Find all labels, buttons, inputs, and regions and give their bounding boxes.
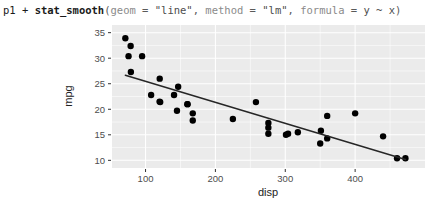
data-point [265, 120, 271, 126]
data-point [171, 92, 177, 98]
y-axis-ticks: 101520253035 [94, 27, 111, 166]
data-point [175, 84, 181, 90]
data-point [174, 108, 180, 114]
data-point [148, 92, 154, 98]
y-tick-label: 30 [94, 53, 105, 64]
data-point [190, 117, 196, 123]
data-point [380, 133, 386, 139]
y-tick-label: 10 [94, 155, 105, 166]
data-point [128, 69, 134, 75]
data-point [125, 53, 131, 59]
code-token-value-formula: y ~ x [363, 4, 395, 16]
scatter-plot-svg: 100200300400 101520253035 disp mpg [0, 20, 431, 200]
data-point [253, 99, 259, 105]
data-point [190, 110, 196, 116]
data-point [230, 116, 236, 122]
data-point [157, 75, 163, 81]
y-tick-label: 20 [94, 104, 105, 115]
code-token-eq-2: = [243, 4, 262, 16]
data-point [184, 101, 190, 107]
data-point [122, 35, 128, 41]
code-token-value-line: "line" [155, 4, 193, 16]
y-axis-title: mpg [62, 85, 74, 106]
code-token-arg-formula: formula [300, 4, 344, 16]
data-point [317, 140, 323, 146]
code-token-eq-3: = [344, 4, 363, 16]
code-token-comma-1: , [193, 4, 206, 16]
x-axis-title: disp [258, 186, 278, 198]
ggplot-output: 100200300400 101520253035 disp mpg [0, 20, 431, 200]
code-token-comma-2: , [288, 4, 301, 16]
code-token-function: stat_smooth [35, 4, 105, 16]
data-point [157, 99, 163, 105]
x-tick-label: 100 [138, 173, 154, 184]
data-point [139, 53, 145, 59]
data-point [283, 132, 289, 138]
data-point [265, 131, 271, 137]
code-token-object: p1 [3, 4, 16, 16]
code-token-plus: + [16, 4, 35, 16]
data-point [127, 43, 133, 49]
data-point [295, 129, 301, 135]
x-tick-label: 200 [207, 173, 223, 184]
data-point [352, 110, 358, 116]
code-token-arg-method: method [205, 4, 243, 16]
code-token-arg-geom: geom [111, 4, 136, 16]
screenshot-root: p1 + stat_smooth(geom = "line", method =… [0, 0, 431, 200]
y-tick-label: 35 [94, 27, 105, 38]
code-token-close-paren: ) [395, 4, 401, 16]
console-code-line: p1 + stat_smooth(geom = "line", method =… [3, 2, 431, 18]
data-point [324, 113, 330, 119]
x-tick-label: 300 [277, 173, 293, 184]
y-tick-label: 25 [94, 78, 105, 89]
code-token-value-lm: "lm" [262, 4, 287, 16]
code-token-eq-1: = [136, 4, 155, 16]
y-tick-label: 15 [94, 129, 105, 140]
x-tick-label: 400 [347, 173, 363, 184]
x-axis-ticks: 100200300400 [138, 169, 363, 184]
